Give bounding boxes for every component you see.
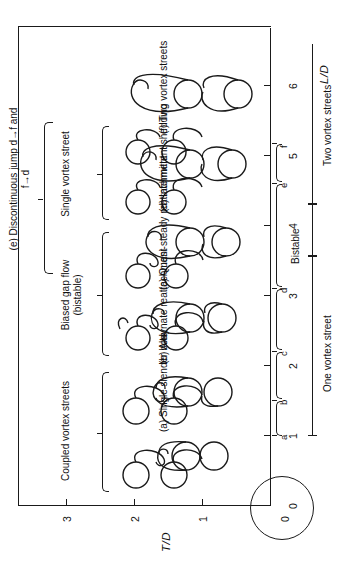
x-axis-label: L/D [318,65,330,84]
letter-bracket-ef [276,144,282,182]
group-label-single-vortex-street: Single vortex street [60,130,72,218]
case-e-brace [44,122,53,274]
x-ticklabel-5: 5 [288,153,299,159]
letter-bracket-cd [276,289,282,350]
x-ticklabel-1: 1 [288,433,299,439]
case-e-stem [38,199,43,200]
letter-tick-f [272,143,277,144]
letter-tick-c [272,351,277,352]
letter-bracket-bc [276,352,282,399]
rotated-plot-wrapper: 0 1 2 3 4 5 6 L/D 0 1 2 3 T/D a b [0,0,358,564]
y-tick-1 [202,499,203,506]
range-label-two-vortex-streets: Two vortex streets [322,85,333,166]
range-label-bistable: Bistable [290,228,301,264]
x-tick-5 [264,155,271,156]
case-label-e: (e) Discontinuous jump d→f and f→d [8,104,31,254]
letter-bracket-ab [276,401,282,436]
figure-canvas: 0 1 2 3 4 5 6 L/D 0 1 2 3 T/D a b [0,0,358,564]
letter-tick-b [272,400,277,401]
group-stem-single [97,174,102,175]
y-ticklabel-3: 3 [62,516,73,522]
sketch-case-a [152,434,234,478]
range-label-one-vortex-street: One vortex street [322,315,333,392]
y-ticklabel-1: 1 [198,516,209,522]
x-tick-3 [264,295,271,296]
x-ticklabel-6: 6 [288,83,299,89]
range-bar-one-vortex-street [312,256,313,436]
sketch-case-d [142,216,246,264]
group-brace-biased [102,232,109,356]
range-cap-left-one [308,435,317,436]
y-ticklabel-2: 2 [130,516,141,522]
sketch-case-b [148,368,238,414]
y-tick-2 [134,499,135,506]
letter-tick-e [272,183,277,184]
letter-bracket-de [276,184,282,287]
group-stem-coupled [97,433,102,434]
y-axis-label: T/D [160,532,172,552]
range-cap-left-two [308,203,317,204]
x-tick-4 [264,225,271,226]
plot-area: 0 1 2 3 4 5 6 L/D 0 1 2 3 T/D a b [0,0,358,564]
y-tick-3 [66,499,67,506]
sketch-case-f-2 [126,66,260,116]
range-bar-two-vortex-streets [312,44,313,204]
group-stem-biased [97,295,102,296]
x-tick-1 [264,435,271,436]
sketch-case-c [146,294,242,340]
group-label-coupled-vortex-streets: Coupled vortex streets [60,376,72,486]
letter-tick-d [272,288,277,289]
sketch-case-f-1 [136,138,252,186]
group-label-biased-gap-flow: Biased gap flow (bistable) [60,238,83,352]
range-cap-left-bistable [308,255,317,256]
letter-tick-a [272,435,277,436]
range-bar-bistable [312,204,313,256]
x-tick-2 [264,365,271,366]
x-ticklabel-2: 2 [288,363,299,369]
group-brace-coupled [102,372,109,492]
x-ticklabel-3: 3 [288,293,299,299]
origin-cylinder-icon [250,476,314,540]
group-brace-single [102,126,109,220]
x-tick-6 [264,85,271,86]
